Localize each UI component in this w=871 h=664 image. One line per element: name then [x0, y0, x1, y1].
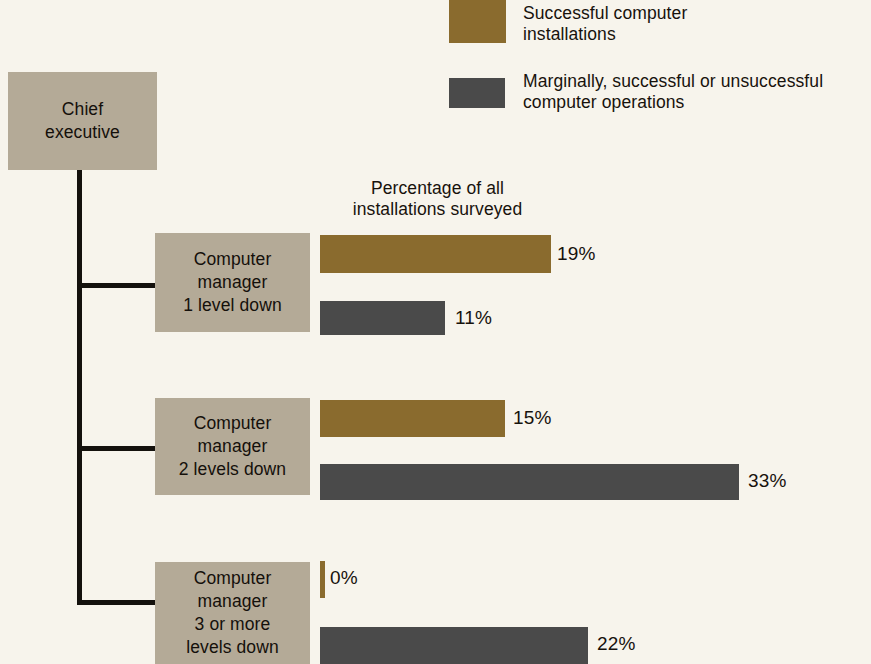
legend: Successful computer installations Margin…	[449, 0, 869, 120]
bar-label-group1-marginal: 11%	[455, 307, 492, 329]
bar-group3-successful	[320, 561, 325, 598]
tree-branch-2	[77, 446, 157, 451]
axis-title: Percentage of all installations surveyed	[320, 178, 555, 220]
bar-label-group3-successful: 0%	[330, 567, 358, 589]
legend-swatch-successful	[449, 0, 506, 43]
bar-label-group1-successful: 19%	[557, 243, 596, 265]
bar-label-group3-marginal: 22%	[597, 633, 636, 655]
bar-group3-marginal	[320, 627, 588, 664]
org-node-manager-3-or-more-levels: Computer manager 3 or more levels down	[155, 562, 310, 664]
tree-branch-1	[77, 283, 157, 288]
legend-label-marginal: Marginally, successful or unsuccessful c…	[523, 71, 871, 113]
bar-label-group2-successful: 15%	[513, 407, 552, 429]
bar-group2-successful	[320, 400, 505, 437]
tree-trunk-vertical	[77, 170, 82, 605]
bar-group2-marginal	[320, 464, 739, 500]
bar-group1-marginal	[320, 301, 445, 335]
tree-branch-3	[77, 600, 157, 605]
legend-label-successful: Successful computer installations	[523, 3, 853, 45]
bar-label-group2-marginal: 33%	[748, 470, 787, 492]
org-node-manager-2-levels: Computer manager 2 levels down	[155, 398, 310, 495]
bar-group1-successful	[320, 235, 551, 273]
org-node-manager-1-level: Computer manager 1 level down	[155, 233, 310, 332]
legend-swatch-marginal	[449, 78, 505, 108]
org-node-chief-executive: Chief executive	[8, 72, 157, 170]
chart-canvas: Successful computer installations Margin…	[0, 0, 871, 664]
